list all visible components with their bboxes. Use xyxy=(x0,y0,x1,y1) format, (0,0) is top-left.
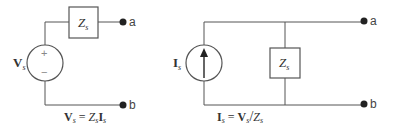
plus-sign: + xyxy=(41,47,47,59)
right-equation: Is = Vs/Zs xyxy=(217,109,263,125)
terminal-b-dot xyxy=(120,102,127,109)
current-source-label: Is xyxy=(173,55,181,72)
current-source-circuit: Zs Is a b Is = Vs/Zs xyxy=(173,14,377,125)
terminal-b-label: b xyxy=(370,97,377,111)
voltage-source-circuit: Zs + − Vs a b Vs = ZsIs xyxy=(13,7,136,125)
terminal-b-dot xyxy=(361,101,368,108)
wire-right-top xyxy=(204,22,363,45)
terminal-a-label: a xyxy=(129,15,136,29)
left-equation: Vs = ZsIs xyxy=(64,110,106,125)
terminal-a-dot xyxy=(120,19,127,26)
terminal-a-dot xyxy=(361,18,368,25)
wire-left-top xyxy=(45,22,69,45)
wire-left-bottom xyxy=(45,81,122,105)
terminal-a-label: a xyxy=(370,14,377,28)
minus-sign: − xyxy=(41,66,47,78)
terminal-b-label: b xyxy=(129,98,136,112)
wire-right-bottom xyxy=(204,81,363,105)
voltage-source-label: Vs xyxy=(13,55,26,72)
circuit-diagram: Zs + − Vs a b Vs = ZsIs Zs Is a b Is = V… xyxy=(0,0,394,131)
